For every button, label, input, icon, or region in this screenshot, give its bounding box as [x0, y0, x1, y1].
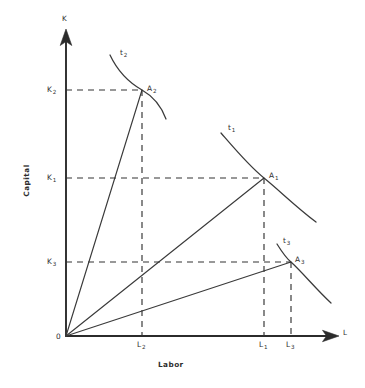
tick-label-l3: L3	[286, 341, 295, 350]
tick-label-k3: K3	[47, 258, 56, 267]
point-label-a2: A2	[147, 85, 157, 94]
y-axis-symbol-label: K	[62, 15, 67, 22]
tick-label-k2: K2	[47, 86, 56, 95]
curve-label-t3: t3	[283, 237, 290, 246]
isoquant-curve-t2	[110, 55, 166, 119]
ray-to-a2	[66, 90, 142, 336]
expansion-rays-group	[66, 90, 291, 336]
curve-label-t2: t2	[120, 49, 127, 58]
diagram-canvas	[0, 0, 365, 388]
ray-to-a3	[66, 262, 291, 336]
isoquant-curve-t3	[277, 244, 331, 303]
ray-to-a1	[66, 178, 264, 336]
y-axis-name-label: Capital	[22, 162, 31, 200]
axes-group	[60, 29, 339, 342]
tick-label-k1: K1	[47, 174, 56, 183]
point-label-a3: A3	[295, 256, 305, 265]
x-axis-name-label: Labor	[158, 361, 184, 368]
x-axis-symbol-label: L	[343, 329, 347, 336]
point-label-a1: A1	[269, 172, 279, 181]
isoquant-curves-group	[110, 55, 331, 303]
tick-label-l2: L2	[137, 341, 146, 350]
isoquant-diagram: K L 0 K2 K1 K3 L2 L1 L3 A2 A1 A3 t2 t1	[0, 0, 365, 388]
tick-label-l1: L1	[259, 341, 268, 350]
curve-label-t1: t1	[228, 124, 235, 133]
origin-label: 0	[56, 333, 61, 340]
